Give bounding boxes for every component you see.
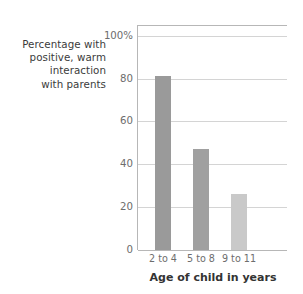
bar-chart-figure: Percentage with positive, warm interacti…	[0, 0, 303, 294]
y-tick-label: 80	[87, 74, 133, 84]
plot-top-border	[137, 25, 287, 26]
y-tick-label: 20	[87, 202, 133, 212]
x-axis-tick-labels: 2 to 45 to 89 to 11	[137, 253, 287, 267]
gridline	[138, 250, 287, 251]
gridline	[138, 36, 287, 37]
plot-area	[137, 25, 287, 250]
y-tick-label: 0	[87, 245, 133, 255]
x-tick-label: 9 to 11	[209, 253, 269, 264]
bar	[193, 149, 209, 250]
y-tick-label: 60	[87, 116, 133, 126]
x-axis-title: Age of child in years	[137, 271, 289, 284]
bar	[155, 76, 171, 250]
y-tick-label: 40	[87, 159, 133, 169]
y-axis-tick-labels: 100% 80 60 40 20 0	[85, 25, 133, 250]
bar	[231, 194, 247, 250]
y-tick-label: 100%	[87, 31, 133, 41]
y-axis-line	[137, 25, 138, 250]
